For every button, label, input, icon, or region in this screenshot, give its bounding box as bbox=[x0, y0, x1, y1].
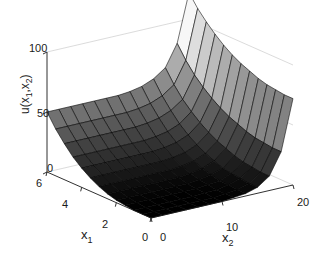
x2-axis-tick: 0 bbox=[160, 232, 166, 243]
x1-axis-tick: 2 bbox=[102, 219, 108, 230]
z-axis-tick: 0 bbox=[47, 163, 53, 174]
x1-axis-tick: 4 bbox=[62, 199, 68, 210]
x1-axis-tick: 6 bbox=[36, 178, 42, 189]
z-axis-tick: 50 bbox=[37, 108, 49, 119]
x1-axis-tick: 0 bbox=[142, 232, 148, 243]
z-axis-tick: 100 bbox=[29, 43, 47, 54]
plot-canvas bbox=[0, 0, 326, 259]
x2-axis-title: x2 bbox=[222, 231, 234, 248]
x2-axis-tick: 20 bbox=[297, 197, 309, 208]
figure-3d-surface-plot: u(x1,x2) 100500642001020 x1 x2 bbox=[0, 0, 326, 259]
x1-axis-title: x1 bbox=[81, 228, 93, 245]
z-axis-title: u(x1,x2) bbox=[18, 56, 34, 132]
